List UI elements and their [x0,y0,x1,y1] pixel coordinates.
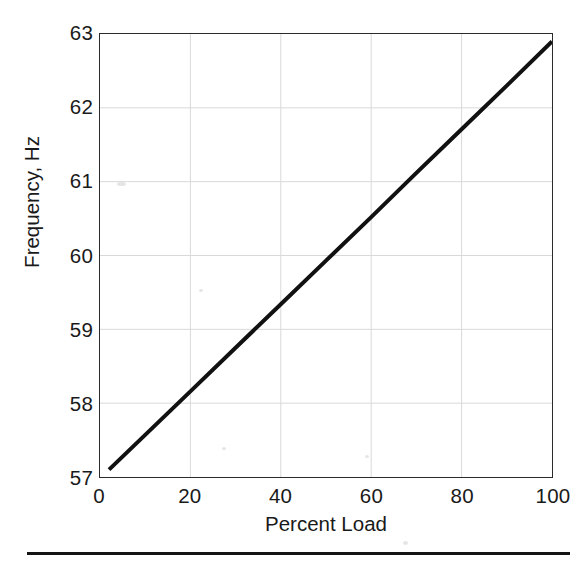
x-tick-label: 60 [360,486,383,507]
y-tick-label: 61 [47,171,93,192]
x-tick-label: 40 [269,486,292,507]
x-axis-tick-labels: 020406080100 [99,486,553,512]
page-divider-rule [27,552,570,555]
y-tick-label: 60 [47,246,93,267]
y-tick-label: 62 [47,97,93,118]
figure-container: 57585960616263 020406080100 Frequency, H… [0,0,584,571]
y-tick-label: 57 [47,468,93,489]
y-axis-tick-labels: 57585960616263 [38,33,93,478]
data-series-line [100,34,552,477]
x-tick-label: 100 [536,486,571,507]
y-tick-label: 59 [47,320,93,341]
x-tick-label: 20 [178,486,201,507]
x-tick-label: 80 [451,486,474,507]
scan-speckle [403,541,408,545]
y-tick-label: 58 [47,394,93,415]
plot-area [99,33,553,478]
x-axis-title: Percent Load [99,512,553,536]
y-tick-label: 63 [47,23,93,44]
x-tick-label: 0 [93,486,105,507]
y-axis-title: Frequency, Hz [20,102,44,302]
